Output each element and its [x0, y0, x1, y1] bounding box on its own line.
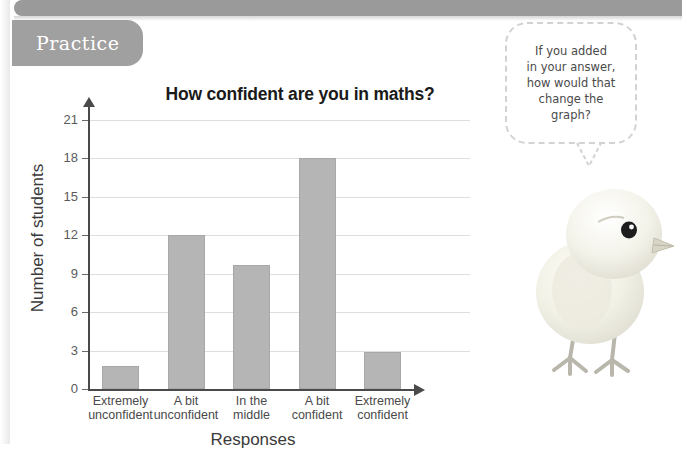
gridline [88, 351, 470, 352]
y-tick-label: 9 [38, 266, 78, 281]
bar [364, 352, 401, 389]
speech-bubble-tail [575, 142, 605, 168]
x-axis-line [88, 389, 416, 391]
y-tick-label: 12 [38, 227, 78, 242]
gridline [88, 312, 470, 313]
gridline [88, 120, 470, 121]
x-category-label: Extremelyconfident [345, 394, 421, 422]
speech-bubble-line: graph? [527, 107, 616, 123]
x-axis-label: Responses [88, 430, 418, 450]
y-tick-label: 6 [38, 304, 78, 319]
bar [102, 366, 139, 389]
y-axis-line [88, 105, 90, 390]
bar [168, 235, 205, 389]
speech-bubble-line: If you added [527, 43, 616, 59]
practice-section-tab: Practice [12, 20, 143, 66]
gridline [88, 197, 470, 198]
y-tick-label: 3 [38, 343, 78, 358]
bar [299, 158, 336, 389]
speech-bubble-line: in your answer, [527, 59, 616, 75]
bar [233, 265, 270, 389]
bar-chart: How confident are you in maths? Number o… [0, 78, 520, 444]
gridline [88, 235, 470, 236]
y-tick-label: 0 [38, 381, 78, 396]
gridline [88, 274, 470, 275]
y-tick-label: 21 [38, 112, 78, 127]
speech-bubble-text: If you addedin your answer,how would tha… [519, 43, 624, 123]
speech-bubble: If you addedin your answer,how would tha… [505, 22, 637, 144]
chart-title: How confident are you in maths? [90, 84, 510, 105]
chick-icon [524, 172, 682, 394]
speech-bubble-line: how would that [527, 75, 616, 91]
gridline [88, 158, 470, 159]
x-category-label-line: confident [345, 408, 421, 422]
y-tick-label: 18 [38, 150, 78, 165]
top-decorative-bar [14, 0, 682, 16]
speech-bubble-line: change the [527, 91, 616, 107]
plot-area: 036912151821 [88, 120, 470, 389]
practice-section-label: Practice [36, 32, 119, 54]
y-tick-label: 15 [38, 189, 78, 204]
x-category-label-line: Extremely [345, 394, 421, 408]
